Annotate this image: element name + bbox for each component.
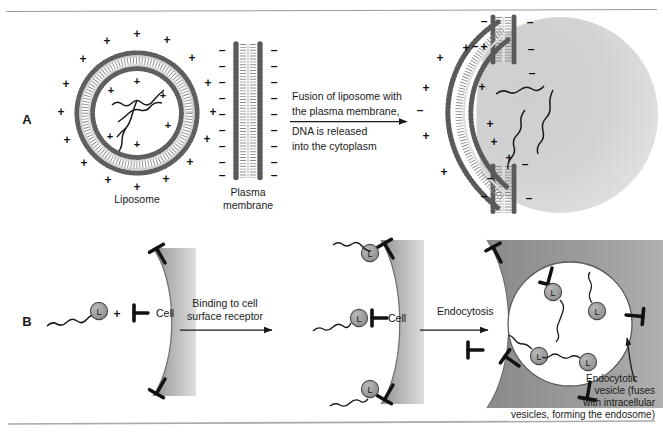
endocytosis-arrow-group: Endocytosis	[420, 305, 494, 330]
diagram-canvas: A	[0, 0, 663, 442]
svg-text:+: +	[480, 40, 487, 54]
figure-root: A	[0, 0, 663, 442]
svg-text:+: +	[63, 133, 70, 147]
svg-text:+: +	[163, 33, 170, 47]
svg-text:–: –	[417, 103, 424, 117]
plasma-membrane-bilayer	[233, 44, 263, 178]
callout-line3: with intracellular	[582, 397, 655, 408]
svg-text:+: +	[62, 77, 69, 91]
svg-text:+: +	[162, 172, 169, 186]
svg-text:–: –	[219, 107, 226, 121]
svg-text:–: –	[527, 15, 534, 29]
svg-text:–: –	[271, 59, 278, 73]
svg-text:–: –	[487, 171, 494, 185]
svg-text:+: +	[478, 80, 485, 94]
cell-label-1: Cell	[156, 307, 174, 319]
svg-text:+: +	[486, 117, 493, 131]
svg-text:+: +	[160, 89, 166, 101]
svg-text:–: –	[271, 107, 278, 121]
plasma-membrane-right-charges: ––– ––– –––	[271, 43, 278, 182]
svg-text:–: –	[526, 191, 533, 205]
svg-text:–: –	[219, 168, 226, 182]
fusion-arrow-group: Fusion of liposome with the plasma membr…	[290, 90, 407, 152]
bound-complex-bottom: L	[330, 380, 400, 406]
fusion-arrow-label-line3: DNA is released	[292, 125, 367, 137]
svg-text:–: –	[529, 66, 536, 80]
svg-text:+: +	[134, 138, 140, 150]
plasma-membrane-left-charges: ––– ––– –––	[219, 43, 226, 182]
svg-text:+: +	[103, 34, 110, 48]
binding-arrow-label-line2: surface receptor	[187, 310, 263, 322]
svg-text:+: +	[80, 156, 87, 170]
svg-text:+: +	[108, 84, 114, 96]
svg-text:+: +	[133, 180, 140, 194]
panel-b: B L +	[22, 239, 663, 420]
cell-label-2: Cell	[388, 312, 406, 324]
fusion-arrow-label-line1: Fusion of liposome with	[292, 90, 402, 102]
svg-text:+: +	[188, 51, 195, 65]
liposome-group: + + + + + + + + + + + + + + + + + +	[57, 27, 216, 205]
callout-line1: Endocytotic	[586, 373, 638, 384]
ligand-label: L	[594, 307, 599, 317]
liposome-bilayer	[77, 53, 197, 173]
bound-complex-middle: L Cell	[313, 309, 406, 331]
endocytosis-arrow-label: Endocytosis	[437, 305, 494, 317]
svg-text:+: +	[422, 81, 429, 95]
svg-text:+: +	[133, 27, 140, 41]
fused-cell-group: + + + + + + + + + + – – – – – – – – –	[417, 14, 658, 213]
b-stage-bound: L L Cell L	[313, 239, 424, 406]
ligand-label: L	[536, 352, 541, 362]
top-rule	[6, 10, 657, 12]
panel-b-label: B	[22, 314, 32, 329]
svg-text:+: +	[462, 41, 469, 55]
b-stage-free: L +	[47, 244, 196, 397]
callout-line4: vesicles, forming the endosome)	[511, 409, 655, 420]
binding-arrow-label-line1: Binding to cell	[192, 297, 257, 309]
svg-text:–: –	[219, 59, 226, 73]
svg-text:+: +	[422, 129, 429, 143]
cell-receptors-3	[468, 243, 508, 358]
plasma-membrane-group: ––– ––– ––– ––– ––– ––– Plasma membrane	[219, 43, 278, 211]
panel-a: A	[22, 14, 658, 213]
svg-text:–: –	[528, 42, 535, 56]
svg-text:–: –	[219, 75, 226, 89]
svg-text:–: –	[219, 155, 226, 169]
svg-text:–: –	[271, 91, 278, 105]
ligand-label: L	[356, 314, 361, 324]
svg-text:–: –	[271, 168, 278, 182]
svg-text:+: +	[57, 105, 64, 119]
svg-text:–: –	[472, 39, 479, 53]
svg-text:+: +	[186, 155, 193, 169]
liposome-caption: Liposome	[114, 193, 160, 205]
svg-text:+: +	[209, 105, 216, 119]
svg-text:–: –	[271, 139, 278, 153]
ligand-label: L	[96, 307, 101, 317]
cell-body-1	[153, 248, 196, 396]
svg-text:+: +	[134, 75, 140, 87]
svg-text:–: –	[271, 123, 278, 137]
ligand-label: L	[585, 358, 590, 368]
ligand-label: L	[367, 385, 372, 395]
svg-text:+: +	[203, 132, 210, 146]
svg-text:–: –	[271, 75, 278, 89]
b-stage-endocytosis: L L L L	[468, 240, 663, 420]
svg-text:–: –	[481, 189, 488, 203]
endocytotic-vesicle	[508, 262, 632, 386]
svg-text:+: +	[440, 165, 447, 179]
ligand-dna-complex: L	[47, 302, 108, 326]
svg-text:–: –	[481, 14, 488, 28]
svg-text:–: –	[271, 155, 278, 169]
plasma-membrane-caption-line2: membrane	[223, 199, 273, 211]
svg-text:+: +	[165, 119, 171, 131]
svg-text:–: –	[219, 43, 226, 57]
svg-text:–: –	[219, 91, 226, 105]
svg-text:–: –	[219, 123, 226, 137]
svg-text:+: +	[79, 52, 86, 66]
callout-line2: vesicle (fuses	[594, 385, 655, 396]
svg-text:–: –	[271, 43, 278, 57]
fusion-arrow-label-line2: the plasma membrane,	[292, 105, 399, 117]
ligand-label: L	[550, 288, 555, 298]
svg-text:+: +	[436, 51, 443, 65]
svg-text:+: +	[204, 76, 211, 90]
plasma-membrane-caption-line1: Plasma	[230, 186, 265, 198]
